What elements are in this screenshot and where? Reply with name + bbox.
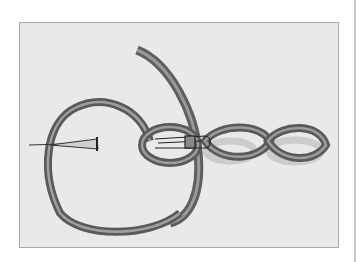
needle-icon [29,137,98,151]
ribbon-stitch-illustration [20,23,339,248]
page-edge-line [354,0,356,262]
illustration-frame [19,22,339,248]
